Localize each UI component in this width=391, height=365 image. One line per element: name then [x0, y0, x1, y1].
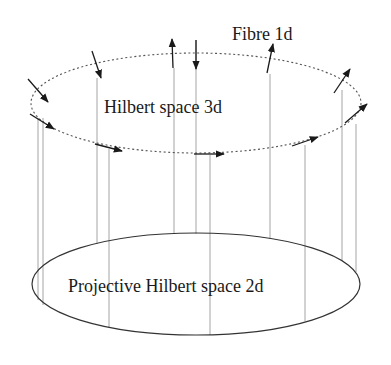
- fibre-bundle-diagram: Fibre 1d Hilbert space 3d Projective Hil…: [0, 0, 391, 365]
- arrow-icon: [345, 104, 367, 123]
- projective-hilbert-space-label: Projective Hilbert space 2d: [68, 276, 263, 296]
- arrow-icon: [92, 51, 101, 78]
- arrow-icon: [30, 114, 54, 129]
- arrow-icon: [292, 137, 318, 146]
- fibre-label: Fibre 1d: [232, 24, 293, 44]
- arrow-icon: [334, 69, 350, 93]
- arrow-icon: [267, 44, 273, 73]
- arrow-icon: [95, 144, 122, 151]
- hilbert-space-label: Hilbert space 3d: [104, 97, 222, 117]
- arrow-icon: [172, 39, 173, 68]
